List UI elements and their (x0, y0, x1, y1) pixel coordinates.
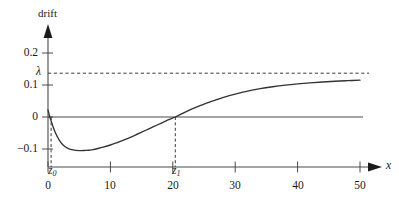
x-tick-label-10: 10 (90, 180, 130, 192)
x-tick-label-30: 30 (215, 180, 255, 192)
x-tick-label-40: 40 (278, 180, 318, 192)
x-tick-label-0: 0 (28, 180, 68, 192)
drift-chart-figure: drift x 0.2 0.1 0 −0.1 λ 0 10 20 30 40 5… (0, 0, 399, 200)
x-axis-arrow-icon (368, 163, 382, 172)
y-tick-label-0.1: 0.1 (0, 79, 38, 91)
lambda-label: λ (36, 66, 41, 78)
z0-label-subscript: 0 (52, 169, 56, 178)
z1-label: z1 (172, 165, 180, 178)
z1-label-subscript: 1 (176, 169, 180, 178)
z0-label: z0 (48, 165, 56, 178)
x-axis-title: x (386, 160, 391, 172)
y-axis-title: drift (38, 8, 57, 19)
y-tick-label--0.1: −0.1 (0, 143, 38, 155)
chart-canvas (0, 0, 399, 200)
y-tick-label-0: 0 (0, 111, 38, 123)
drift-curve (48, 80, 360, 150)
x-tick-label-20: 20 (153, 180, 193, 192)
x-tick-label-50: 50 (340, 180, 380, 192)
y-axis-arrow-icon (44, 24, 53, 38)
y-tick-label-0.2: 0.2 (0, 47, 38, 59)
